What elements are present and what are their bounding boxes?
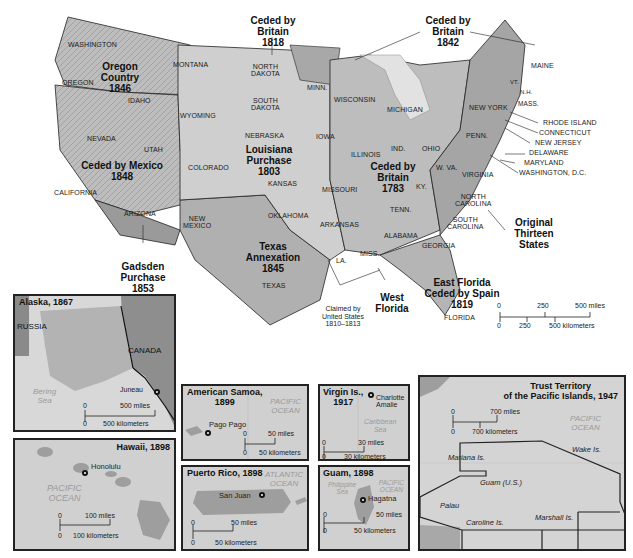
guam-city-hagatna: Hagatna [368, 494, 396, 503]
samoa-scale-km-0: 0 [243, 449, 247, 456]
label-iowa: IOWA [316, 133, 335, 140]
virgin-scale-km: 30 kilometers [344, 453, 386, 460]
virgin-city-charlotte-amalie: Charlotte Amalie [376, 394, 404, 408]
trust-scale-mi-0: 0 [451, 408, 455, 415]
trust-mariana-islands: Mariana Is. [448, 453, 485, 462]
label-california: CALIFORNIA [54, 189, 97, 196]
label-georgia: GEORGIA [422, 242, 455, 249]
guam-scale-km-0: 0 [323, 527, 327, 534]
samoa-title: American Samoa, 1899 [187, 388, 263, 408]
trust-scale-mi: 700 miles [490, 408, 520, 415]
guam-scale-mi: 50 miles [376, 511, 402, 518]
label-wyoming: WYOMING [180, 112, 216, 119]
label-tenn: TENN. [390, 206, 412, 213]
honolulu-marker [82, 470, 88, 476]
alaska-canada: CANADA [128, 346, 161, 355]
label-north-carolina: NORTH CAROLINA [455, 193, 492, 208]
callout-new-jersey: NEW JERSEY [535, 139, 582, 146]
label-florida: FLORIDA [444, 314, 475, 321]
trust-pacific-ocean: PACIFIC OCEAN [570, 415, 601, 433]
trust-territory-title: Trust Territory of the Pacific Islands, … [503, 382, 618, 402]
virgin-islands-title: Virgin Is., 1917 [323, 388, 363, 408]
alaska-scale-km: 500 kilometers [103, 420, 149, 427]
charlotte-amalie-marker [368, 392, 374, 398]
label-south-dakota: SOUTH DAKOTA [251, 97, 280, 112]
label-oregon-country: Oregon Country 1846 [92, 61, 148, 94]
label-ceded-1818: Ceded by Britain 1818 [250, 15, 296, 48]
main-scale-mi-0: 0 [497, 302, 501, 309]
hawaii-scale-mi-0: 0 [58, 512, 62, 519]
label-east-florida: East Florida Ceded by Spain 1819 [420, 277, 504, 310]
guam-title: Guam, 1898 [323, 469, 374, 479]
label-nebraska: NEBRASKA [245, 132, 284, 139]
label-north-dakota: NORTH DAKOTA [251, 63, 280, 78]
label-ceded-1783: Ceded by Britain 1783 [365, 161, 421, 194]
label-kansas: KANSAS [268, 180, 297, 187]
label-wisconsin: WISCONSIN [334, 96, 375, 103]
inset-alaska: Alaska, 1867 RUSSIA CANADA Bering Sea Ju… [13, 294, 176, 432]
label-texas-annexation: Texas Annexation 1845 [240, 241, 306, 274]
trust-marshall-islands: Marshall Is. [535, 513, 573, 522]
alaska-russia: RUSSIA [17, 322, 47, 331]
label-missouri: MISSOURI [322, 186, 357, 193]
label-louisiana-purchase: Louisiana Purchase 1803 [237, 144, 301, 177]
samoa-scale-km: 50 kilometers [259, 449, 301, 456]
inset-puerto-rico: Puerto Rico, 1898 ATLANTIC OCEAN San Jua… [181, 465, 309, 551]
label-new-york: NEW YORK [469, 104, 508, 111]
main-scale-bar [500, 312, 590, 322]
puerto-rico-title: Puerto Rico, 1898 [187, 469, 263, 479]
hawaii-scale-km-0: 0 [58, 532, 62, 539]
alaska-bering-sea: Bering Sea [33, 388, 56, 406]
label-ceded-1842: Ceded by Britain 1842 [420, 15, 476, 48]
inset-guam: Guam, 1898 Philippine Sea PACIFIC OCEAN … [318, 465, 410, 551]
hawaii-scale-km: 100 kilometers [73, 532, 119, 539]
samoa-scale-mi: 50 miles [268, 430, 294, 437]
main-scale-mi-250: 250 [537, 302, 549, 309]
puerto-rico-ocean: ATLANTIC OCEAN [265, 471, 303, 489]
label-washington: WASHINGTON [68, 41, 117, 48]
label-west-florida: West Florida [370, 292, 414, 314]
trust-guam: Guam (U.S.) [480, 478, 522, 487]
label-claimed-1810-1813: Claimed by United States 1810–1813 [315, 305, 371, 328]
label-south-carolina: SOUTH CAROLINA [447, 216, 484, 231]
label-oregon: OREGON [62, 79, 94, 86]
label-texas: TEXAS [262, 282, 285, 289]
pago-pago-marker [205, 430, 211, 436]
label-utah: UTAH [144, 146, 163, 153]
callout-rhode-island: RHODE ISLAND [543, 119, 597, 126]
hagatna-marker [360, 497, 366, 503]
hawaii-ocean: PACIFIC OCEAN [47, 484, 82, 504]
guam-scale-km: 50 kilometers [354, 527, 396, 534]
label-w-va: W. VA. [436, 164, 457, 171]
label-idaho: IDAHO [128, 97, 151, 104]
label-arkansas: ARKANSAS [320, 221, 359, 228]
trust-scale-km-0: 0 [451, 428, 455, 435]
juneau-marker [154, 389, 160, 395]
callout-washington-dc: WASHINGTON, D.C. [519, 169, 586, 176]
hawaii-title: Hawaii, 1898 [116, 443, 170, 453]
inset-virgin-islands: Virgin Is., 1917 Charlotte Amalie Caribb… [318, 384, 410, 461]
label-oklahoma: OKLAHOMA [268, 212, 308, 219]
label-mass: MASS. [518, 101, 539, 108]
label-nevada: NEVADA [87, 135, 116, 142]
inset-trust-territory: Trust Territory of the Pacific Islands, … [418, 375, 626, 551]
guam-philippine-sea: Philippine Sea [328, 481, 356, 495]
label-la: LA. [336, 257, 347, 264]
label-virginia: VIRGINIA [462, 171, 494, 178]
label-minn: MINN. [307, 84, 327, 91]
label-original-thirteen: Original Thirteen States [506, 217, 562, 250]
hawaii-city-honolulu: Honolulu [91, 462, 121, 471]
trust-palau: Palau [440, 501, 459, 510]
label-arizona: ARIZONA [124, 210, 156, 217]
samoa-city-pago-pago: Pago Pago [209, 420, 246, 429]
alaska-scale-km-0: 0 [83, 420, 87, 427]
samoa-ocean: PACIFIC OCEAN [270, 398, 301, 416]
label-miss: MISS. [360, 250, 380, 257]
alaska-title: Alaska, 1867 [19, 298, 73, 308]
guam-pacific-ocean: PACIFIC OCEAN [379, 479, 404, 493]
main-scale-km-500: 500 kilometers [549, 322, 595, 329]
virgin-caribbean-sea: Caribbean Sea [364, 418, 396, 433]
label-colorado: COLORADO [188, 164, 229, 171]
main-scale-km-0: 0 [497, 322, 501, 329]
label-new-mexico: NEW MEXICO [183, 215, 211, 230]
